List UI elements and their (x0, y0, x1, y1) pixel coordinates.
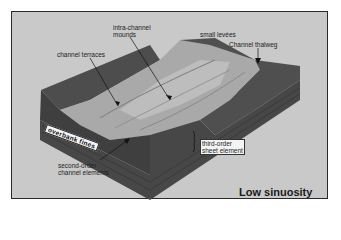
label-intra-channel-mounds: intra-channel mounds (113, 24, 151, 38)
figure-title: Low sinuosity (239, 186, 312, 198)
label-line: sheet element (202, 147, 243, 154)
label-line: intra-channel (113, 24, 151, 31)
label-small-levees: small levées (200, 31, 236, 38)
label-line: mounds (113, 31, 151, 38)
label-third-order: third-order sheet element (200, 139, 245, 155)
label-line: channel elements (58, 169, 109, 176)
label-channel-terraces: channel terraces (57, 51, 105, 58)
label-line: second-order (58, 162, 109, 169)
label-line: third-order (202, 140, 243, 147)
label-channel-thalweg: Channel thalweg (229, 41, 277, 48)
label-second-order: second-order channel elements (58, 162, 109, 176)
